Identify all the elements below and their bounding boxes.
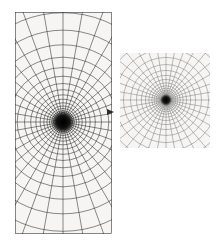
right-panel	[120, 53, 210, 148]
right-panel-canvas	[120, 53, 210, 148]
figure-root	[0, 0, 220, 246]
left-panel	[15, 12, 112, 234]
left-panel-canvas	[15, 12, 112, 234]
left-panel-core	[51, 110, 75, 134]
right-panel-core	[160, 94, 172, 106]
